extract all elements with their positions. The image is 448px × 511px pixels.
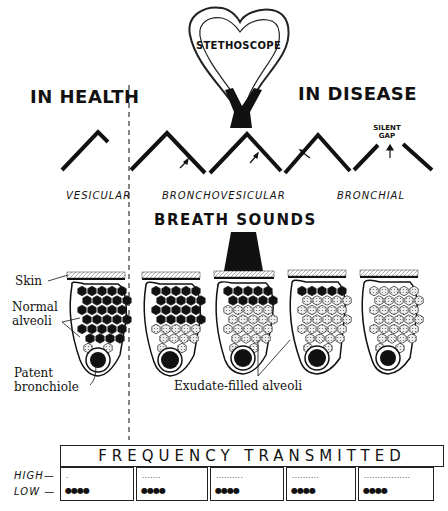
- normal-alveoli-line2: alveoli: [12, 314, 58, 328]
- low-label: LOW: [14, 486, 40, 497]
- low-row-label: LOW —: [14, 486, 55, 497]
- low-dots: ●●●●: [65, 487, 89, 495]
- frequency-cell-2: ······· ●●●●: [136, 467, 208, 501]
- high-dots: ··········: [216, 474, 243, 482]
- low-dots: ●●●●: [363, 487, 387, 495]
- frequency-cell-1: · ●●●●: [60, 467, 134, 501]
- normal-alveoli-line1: Normal: [12, 300, 58, 314]
- high-dots: ·················: [364, 474, 410, 482]
- normal-alveoli-label: Normal alveoli: [12, 300, 58, 328]
- exudate-label: Exudate-filled alveoli: [174, 379, 302, 393]
- frequency-cell-5: ················· ●●●●: [358, 467, 434, 501]
- skin-label: Skin: [15, 274, 42, 288]
- patent-bronchiole-line2: bronchiole: [14, 380, 79, 394]
- high-dots: ·······: [142, 474, 161, 482]
- frequency-cell-4: ·········· ●●●●: [286, 467, 356, 501]
- frequency-table: FREQUENCY TRANSMITTED · ●●●● ······· ●●●…: [60, 445, 444, 501]
- patent-bronchiole-label: Patent bronchiole: [14, 366, 79, 394]
- lobule-diagrams: [0, 0, 448, 511]
- patent-bronchiole-line1: Patent: [14, 366, 79, 380]
- low-dots: ●●●●: [215, 487, 239, 495]
- high-row-label: HIGH—: [14, 470, 55, 481]
- low-dots: ●●●●: [141, 487, 165, 495]
- high-dots: ·: [66, 474, 69, 482]
- low-dots: ●●●●: [291, 487, 315, 495]
- high-label: HIGH: [14, 470, 44, 481]
- frequency-cell-3: ·········· ●●●●: [210, 467, 284, 501]
- high-dots: ··········: [292, 474, 319, 482]
- frequency-title: FREQUENCY TRANSMITTED: [60, 445, 444, 467]
